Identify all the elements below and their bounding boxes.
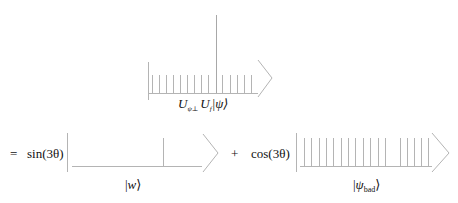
ket-arrow-icon [432, 133, 449, 172]
ket-angle: ⟩ [136, 177, 141, 192]
equals-sign: = [10, 146, 17, 162]
top-state-label: Uψ⊥Uf|ψ⟩ [178, 96, 228, 113]
ket-psi: |ψ⟩ [212, 96, 229, 111]
cos-coefficient: cos(3θ) [251, 146, 290, 162]
psi-bad-state-diagram [296, 133, 449, 172]
ket-var-w: w [128, 177, 137, 192]
top-state-diagram [148, 15, 272, 100]
amplitude-diagram-canvas [0, 0, 458, 203]
w-state-diagram [67, 133, 218, 172]
sin-coefficient: sin(3θ) [27, 146, 64, 162]
ket-arrow-icon [203, 134, 218, 172]
subscript-psi-perp: ψ⊥ [187, 105, 198, 113]
plus-sign: + [231, 146, 238, 162]
operator-u-f: Uf [200, 96, 211, 111]
ket-arrow-icon [258, 60, 272, 97]
ket-var-psi: ψ [356, 177, 364, 192]
ket-angle: ⟩ [375, 177, 380, 192]
w-ket-label: |w⟩ [125, 177, 141, 193]
psi-bad-ket-label: |ψbad⟩ [353, 177, 380, 194]
subscript-bad: bad [364, 185, 376, 194]
operator-u-psi-perp: Uψ⊥ [178, 96, 198, 111]
